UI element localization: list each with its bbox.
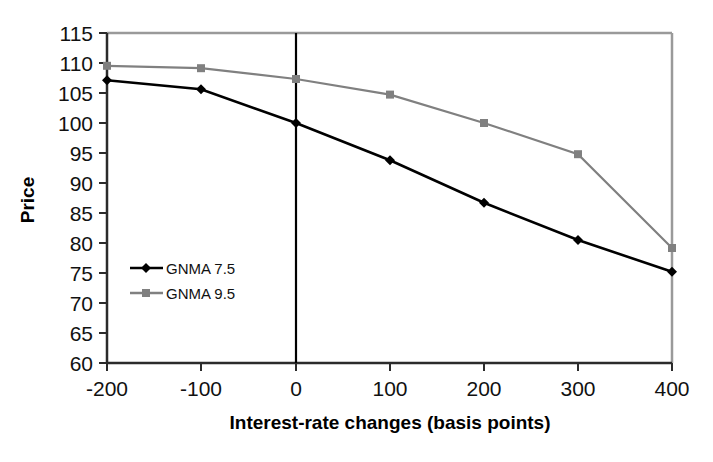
x-tick-label: 100 (372, 377, 407, 400)
plot-background (107, 33, 672, 363)
y-tick-label: 70 (70, 292, 93, 315)
data-point-marker (668, 244, 676, 252)
plot-frame (107, 33, 672, 363)
legend-label: GNMA 9.5 (166, 285, 235, 302)
x-tick-label: 400 (654, 377, 689, 400)
y-axis-title: Price (17, 177, 38, 223)
x-axis-title: Interest-rate changes (basis points) (230, 412, 551, 433)
chart-figure: 115 110 105 100 95 90 85 80 75 70 65 60 … (0, 0, 713, 462)
legend-square-marker-icon (142, 289, 150, 297)
y-tick-label: 115 (60, 22, 93, 45)
x-tick-label: 300 (560, 377, 595, 400)
x-tick-label: -100 (180, 377, 222, 400)
y-tick-label: 60 (70, 352, 93, 375)
data-point-marker (292, 75, 300, 83)
y-tick-label: 75 (70, 262, 93, 285)
line-chart: 115 110 105 100 95 90 85 80 75 70 65 60 … (0, 0, 713, 462)
y-tick-label: 80 (70, 232, 93, 255)
data-point-marker (386, 91, 394, 99)
y-tick-label: 100 (58, 112, 93, 135)
data-point-marker (197, 64, 205, 72)
y-tick-label: 85 (70, 202, 93, 225)
y-tick-label: 90 (70, 172, 93, 195)
y-tick-label: 95 (70, 142, 93, 165)
data-point-marker (480, 119, 488, 127)
data-point-marker (574, 150, 582, 158)
x-tick-label: 0 (290, 377, 302, 400)
data-point-marker (103, 62, 111, 70)
y-tick-label: 110 (60, 52, 93, 75)
y-tick-label: 65 (70, 322, 93, 345)
x-axis-tick-labels: -200 -100 0 100 200 300 400 (86, 377, 690, 400)
x-tick-label: -200 (86, 377, 128, 400)
x-tick-label: 200 (466, 377, 501, 400)
legend-label: GNMA 7.5 (166, 260, 235, 277)
y-axis-tick-labels: 115 110 105 100 95 90 85 80 75 70 65 60 (58, 22, 93, 375)
y-tick-label: 105 (58, 82, 93, 105)
